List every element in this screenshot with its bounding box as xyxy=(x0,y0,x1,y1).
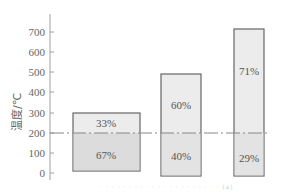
caption-faded-text: · · · · · · · · · · · · · · · · · · · · … xyxy=(100,183,219,190)
bar-1-lower-pct: 67% xyxy=(96,149,116,161)
y-ticks xyxy=(50,32,54,173)
caption-sublabel: (a) xyxy=(222,183,233,190)
tick-100: 100 xyxy=(29,147,46,159)
bar-2-upper-pct: 60% xyxy=(171,99,191,111)
bar-3-lower-pct: 29% xyxy=(239,152,259,164)
tick-600: 600 xyxy=(29,46,46,58)
figure-caption: · · · · · · · · · · · · · · · · · · · · … xyxy=(100,183,233,190)
bar-3-upper-pct: 71% xyxy=(239,65,259,77)
y-axis-label: 温度/℃ xyxy=(10,93,24,131)
y-tick-labels: 0 100 200 300 400 500 600 700 xyxy=(29,26,46,179)
temperature-bar-chart: 0 100 200 300 400 500 600 700 温度/℃ 33% 6… xyxy=(0,0,283,193)
bar-1-upper-pct: 33% xyxy=(96,117,116,129)
tick-500: 500 xyxy=(29,66,46,78)
tick-400: 400 xyxy=(29,86,46,98)
bar-2-lower-pct: 40% xyxy=(171,150,191,162)
tick-200: 200 xyxy=(29,127,46,139)
tick-300: 300 xyxy=(29,107,46,119)
tick-700: 700 xyxy=(29,26,46,38)
tick-0: 0 xyxy=(40,167,46,179)
